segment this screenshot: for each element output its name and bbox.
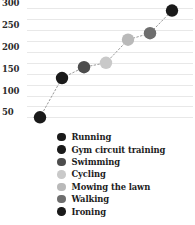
scatter-series	[0, 0, 195, 130]
legend-item-label: Mowing the lawn	[72, 182, 151, 192]
data-point	[34, 111, 46, 123]
legend-item[interactable]: Swimming	[0, 156, 195, 168]
data-point	[56, 72, 68, 84]
chart-container: 50100150200250300 RunningGym circuit tra…	[0, 0, 195, 225]
legend-item-label: Running	[72, 132, 112, 142]
legend-item-label: Gym circuit training	[72, 145, 166, 155]
legend-swatch-circle-icon	[57, 183, 66, 192]
legend-swatch-circle-icon	[57, 170, 66, 179]
plot-area: 50100150200250300	[0, 0, 195, 130]
legend-swatch-circle-icon	[57, 133, 66, 142]
legend-item-label: Cycling	[72, 169, 106, 179]
legend-swatch-circle-icon	[57, 207, 66, 216]
legend-item[interactable]: Walking	[0, 193, 195, 205]
legend-item[interactable]: Cycling	[0, 168, 195, 180]
legend-swatch-circle-icon	[57, 158, 66, 167]
legend-item[interactable]: Running	[0, 131, 195, 143]
legend-swatch-circle-icon	[57, 195, 66, 204]
legend-item[interactable]: Ironing	[0, 205, 195, 217]
data-point	[78, 61, 90, 73]
legend-item-label: Ironing	[72, 207, 106, 217]
data-points-group	[34, 4, 178, 123]
data-point	[122, 34, 134, 46]
data-point	[100, 57, 112, 69]
legend: RunningGym circuit trainingSwimmingCycli…	[0, 131, 195, 225]
legend-item-label: Walking	[72, 194, 110, 204]
legend-swatch-circle-icon	[57, 145, 66, 154]
data-point	[166, 4, 178, 16]
legend-item-label: Swimming	[72, 157, 121, 167]
legend-item[interactable]: Mowing the lawn	[0, 181, 195, 193]
legend-item[interactable]: Gym circuit training	[0, 143, 195, 155]
data-point	[144, 27, 156, 39]
